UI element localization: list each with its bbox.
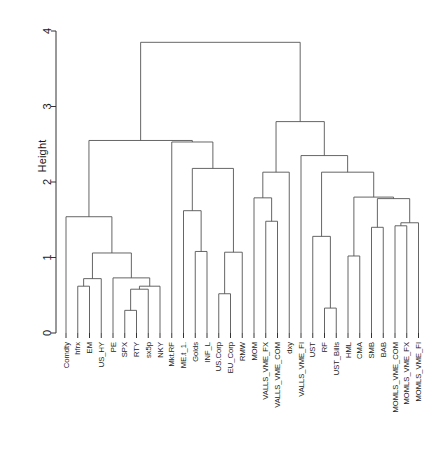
leaf-label: dxy — [285, 342, 294, 354]
dendrogram-link — [354, 197, 394, 256]
leaf-label: EM — [85, 342, 94, 353]
leaf-label: MOMLS_VME_FI — [414, 342, 423, 402]
leaf-label: HML — [344, 342, 353, 358]
y-axis-tick-label: 4 — [41, 28, 53, 34]
leaf-label: SMB — [367, 342, 376, 358]
dendrogram-link — [195, 251, 207, 333]
dendrogram-link — [276, 122, 324, 173]
dendrogram-link — [395, 226, 407, 333]
leaf-label: Golds — [191, 342, 200, 362]
leaf-label: VALLS_VME_FX — [261, 342, 270, 400]
leaf-label: EU_Corp — [226, 342, 235, 373]
dendrogram-link — [131, 289, 149, 333]
leaf-label: BAB — [379, 342, 388, 357]
dendrogram-link — [184, 211, 202, 333]
leaf-label: NKY — [156, 342, 165, 358]
dendrogram-link — [125, 310, 137, 333]
y-axis-tick-label: 1 — [41, 254, 53, 260]
dendrogram-link — [401, 223, 419, 333]
leaf-label: UST — [308, 342, 317, 358]
dendrogram-link — [263, 172, 289, 333]
dendrogram-link — [225, 252, 243, 333]
leaf-label: UST_Bills — [332, 342, 341, 376]
leaf-label: VALLS_VME_FI — [297, 342, 306, 397]
leaf-label: hfrx — [73, 342, 82, 355]
dendrogram-plot: 01234ComdtyhfrxEMUS_HYPESPXRTYsx5pNKYMkt… — [0, 0, 441, 458]
dendrogram-link — [219, 294, 231, 333]
leaf-label: US.Corp — [214, 342, 223, 371]
dendrogram-link — [139, 286, 160, 333]
leaf-label: CMA — [355, 341, 364, 359]
leaf-label: ME.t_1. — [179, 342, 188, 368]
dendrogram-link — [313, 236, 331, 333]
leaf-label: PE — [109, 342, 118, 352]
dendrogram-canvas: 01234ComdtyhfrxEMUS_HYPESPXRTYsx5pNKYMkt… — [0, 0, 441, 458]
leaf-label: VALLS_VME_COM — [273, 342, 282, 408]
y-axis-tick-label: 3 — [41, 103, 53, 109]
dendrogram-link — [325, 308, 337, 333]
leaf-label: INF_L — [203, 342, 212, 363]
dendrogram-link — [301, 156, 348, 333]
leaf-label: MOM — [250, 342, 259, 361]
leaf-label: SPX — [120, 342, 129, 357]
leaf-labels: ComdtyhfrxEMUS_HYPESPXRTYsx5pNKYMkt.RFME… — [62, 333, 424, 412]
dendrogram-link — [92, 253, 131, 279]
leaf-label: MOMLS_VME_COM — [391, 342, 400, 412]
leaf-label: Comdty — [62, 342, 71, 368]
leaf-label: Mkt.RF — [167, 342, 176, 367]
dendrogram-link — [89, 140, 192, 216]
leaf-label: RMW — [238, 341, 247, 361]
y-axis-tick-label: 0 — [41, 330, 53, 336]
dendrogram-link — [66, 217, 112, 333]
dendrogram-link — [372, 227, 384, 333]
dendrogram-link — [266, 221, 278, 333]
leaf-label: MOMLS_VME_FX — [402, 342, 411, 404]
dendrogram-link — [78, 286, 90, 333]
dendrogram-link — [84, 279, 102, 333]
dendrogram-link — [254, 198, 272, 333]
leaf-label: RTY — [132, 342, 141, 357]
leaf-label: US_HY — [97, 342, 106, 367]
leaf-label: sx5p — [144, 342, 153, 358]
dendrogram-links — [66, 42, 419, 333]
dendrogram-link — [322, 172, 374, 236]
leaf-label: RF — [320, 342, 329, 352]
dendrogram-link — [348, 256, 360, 333]
y-axis-title: Height — [36, 116, 48, 196]
